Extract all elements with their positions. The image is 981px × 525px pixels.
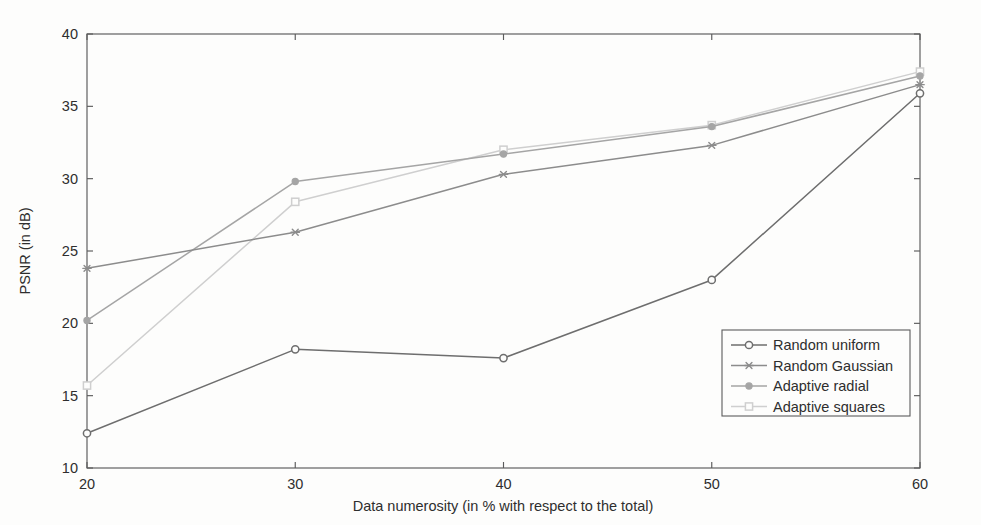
y-tick-label: 25 xyxy=(62,243,78,259)
data-point-marker xyxy=(292,346,299,353)
data-point-marker xyxy=(292,178,298,184)
legend-item-label: Adaptive radial xyxy=(773,378,869,394)
data-point-marker xyxy=(292,198,299,205)
figure-canvas: 10152025303540 2030405060 Data numerosit… xyxy=(0,0,981,525)
y-axis-tick-labels: 10152025303540 xyxy=(62,26,78,476)
y-tick-label: 10 xyxy=(62,460,78,476)
legend-marker-icon xyxy=(746,383,752,389)
data-point-marker xyxy=(84,317,90,323)
x-axis-title: Data numerosity (in % with respect to th… xyxy=(353,498,654,514)
data-point-marker xyxy=(500,354,507,361)
legend-item-label: Random Gaussian xyxy=(773,358,893,374)
data-point-marker xyxy=(291,229,299,235)
legend-item-label: Adaptive squares xyxy=(773,399,885,415)
y-tick-label: 30 xyxy=(62,171,78,187)
data-point-marker xyxy=(83,430,90,437)
x-tick-label: 60 xyxy=(912,476,928,492)
data-point-marker xyxy=(708,276,715,283)
data-point-marker xyxy=(500,151,506,157)
data-point-marker xyxy=(499,171,507,177)
y-tick-label: 15 xyxy=(62,388,78,404)
x-tick-label: 50 xyxy=(704,476,720,492)
series-adaptive-radial xyxy=(84,73,923,324)
y-tick-label: 35 xyxy=(62,98,78,114)
x-tick-label: 30 xyxy=(287,476,303,492)
y-axis-title: PSNR (in dB) xyxy=(17,207,33,294)
series-line xyxy=(87,76,920,320)
data-point-marker xyxy=(709,123,715,129)
legend-item-label: Random uniform xyxy=(773,337,880,353)
y-tick-label: 20 xyxy=(62,315,78,331)
chart-legend: Random uniformRandom GaussianAdaptive ra… xyxy=(722,330,910,416)
x-tick-label: 40 xyxy=(495,476,511,492)
x-tick-label: 20 xyxy=(79,476,95,492)
chart-plot: 10152025303540 2030405060 Data numerosit… xyxy=(0,0,981,525)
data-point-marker xyxy=(83,382,90,389)
data-point-marker xyxy=(917,73,923,79)
x-axis-tick-labels: 2030405060 xyxy=(79,476,928,492)
data-point-marker xyxy=(916,90,923,97)
legend-marker-icon xyxy=(745,403,752,410)
data-point-marker xyxy=(708,142,716,148)
legend-marker-icon xyxy=(745,341,752,348)
y-tick-label: 40 xyxy=(62,26,78,42)
series-line xyxy=(87,85,920,269)
series-random-gaussian xyxy=(83,82,924,272)
